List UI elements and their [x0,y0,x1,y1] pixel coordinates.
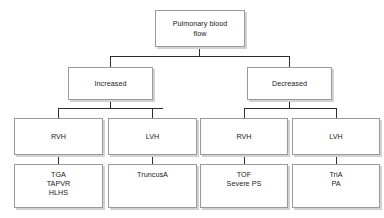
connector-increased-to-lvh [152,108,153,118]
node-label: TruncusA [109,170,196,179]
node-label: TGA TAPVR HLHS [15,170,102,198]
connector-decreased-to-rvh [244,108,245,118]
connector-decreased-stem [289,100,290,108]
node-label: Decreased [248,79,331,88]
node-decreased[interactable]: Decreased [247,67,332,100]
connector-increased-bar [58,108,163,109]
node-label: TOF Severe PS [201,170,287,188]
node-label: RVH [201,132,287,141]
node-label: TriA PA [293,170,379,188]
node-pulmonary-blood-flow[interactable]: Pulmonary blood flow [155,10,245,47]
node-increased[interactable]: Increased [68,67,153,100]
connector-inc-lvh-to-dx [152,155,153,164]
connector-dec-rvh-to-dx [244,155,245,164]
node-increased-rvh-diagnoses[interactable]: TGA TAPVR HLHS [14,164,103,208]
node-label: LVH [109,132,196,141]
node-decreased-lvh[interactable]: LVH [292,118,380,155]
connector-root-bar [110,56,290,57]
connector-root-to-decreased [289,56,290,67]
node-increased-rvh[interactable]: RVH [14,118,103,155]
connector-dec-lvh-to-dx [336,155,337,164]
node-increased-lvh-diagnoses[interactable]: TruncusA [108,164,197,208]
node-label: Increased [69,79,152,88]
node-decreased-lvh-diagnoses[interactable]: TriA PA [292,164,380,208]
connector-decreased-bar [244,108,337,109]
connector-increased-to-rvh [58,108,59,118]
connector-inc-rvh-to-dx [58,155,59,164]
node-label: Pulmonary blood flow [156,19,244,37]
node-decreased-rvh[interactable]: RVH [200,118,288,155]
node-label: LVH [293,132,379,141]
flowchart-canvas: Pulmonary blood flow Increased Decreased… [0,0,384,218]
node-label: RVH [15,132,102,141]
connector-root-to-increased [110,56,111,67]
connector-decreased-to-lvh [336,108,337,118]
node-decreased-rvh-diagnoses[interactable]: TOF Severe PS [200,164,288,208]
connector-increased-stem [110,100,111,108]
node-increased-lvh[interactable]: LVH [108,118,197,155]
connector-root-stem [199,47,200,56]
